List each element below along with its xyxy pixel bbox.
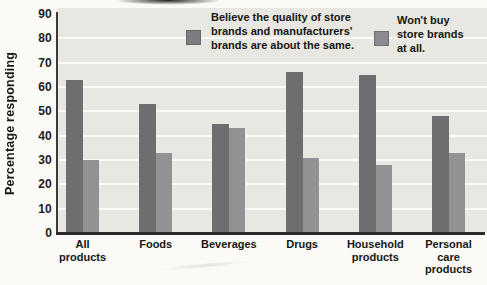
gridline-20 [57, 183, 487, 185]
y-tick-label-80: 80 [16, 31, 52, 45]
y-tick-label-60: 60 [16, 80, 52, 94]
bar-drugs-series2 [303, 158, 319, 233]
y-tick-label-40: 40 [16, 129, 52, 143]
x-axis-line [56, 232, 485, 235]
bar-foods-series2 [156, 153, 172, 233]
legend-label-series1: Believe the quality of store brands and … [211, 11, 354, 52]
x-category-label-household-products: Household products [347, 238, 404, 263]
x-category-label-foods: Foods [139, 238, 172, 251]
legend-label-series2: Won't buy store brands at all. [397, 14, 464, 55]
scan-smudge-artifact [98, 0, 244, 6]
bar-personal-care-products-series1 [432, 116, 449, 233]
y-tick-label-20: 20 [16, 177, 52, 191]
bar-personal-care-products-series2 [449, 153, 465, 233]
x-category-label-personal-care-products: Personal care products [425, 238, 472, 276]
bar-drugs-series1 [286, 72, 303, 233]
legend-swatch-series1 [186, 30, 201, 45]
y-axis-line [56, 12, 58, 233]
y-tick-label-90: 90 [16, 7, 52, 21]
bar-all-products-series1 [66, 80, 83, 233]
scan-streak-artifact [140, 256, 270, 274]
y-axis-title: Percentage responding [3, 50, 20, 196]
x-category-label-all-products: All products [59, 238, 106, 263]
y-tick-label-50: 50 [16, 104, 52, 118]
bar-beverages-series2 [229, 128, 245, 233]
y-tick-label-70: 70 [16, 56, 52, 70]
x-category-label-drugs: Drugs [286, 238, 318, 251]
gridline-30 [57, 159, 487, 161]
y-tick-label-10: 10 [16, 202, 52, 216]
bar-beverages-series1 [212, 124, 229, 234]
bar-household-products-series1 [359, 75, 376, 233]
gridline-60 [57, 86, 487, 88]
y-tick-label-0: 0 [16, 226, 52, 240]
gridline-50 [57, 110, 487, 112]
x-category-label-beverages: Beverages [201, 238, 257, 251]
bar-foods-series1 [139, 104, 156, 233]
bar-all-products-series2 [83, 160, 99, 233]
chart-figure: Percentage responding Believe the qualit… [0, 0, 487, 285]
gridline-10 [57, 208, 487, 210]
bar-household-products-series2 [376, 165, 392, 233]
legend-swatch-series2 [374, 31, 389, 46]
gridline-70 [57, 62, 487, 64]
gridline-40 [57, 135, 487, 137]
y-tick-label-30: 30 [16, 153, 52, 167]
